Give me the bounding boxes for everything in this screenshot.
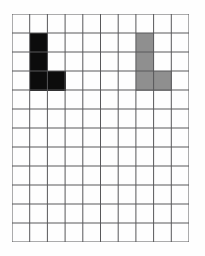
grid-lines bbox=[12, 14, 189, 242]
grid-container[interactable] bbox=[12, 14, 189, 242]
figure-canvas bbox=[0, 0, 205, 256]
